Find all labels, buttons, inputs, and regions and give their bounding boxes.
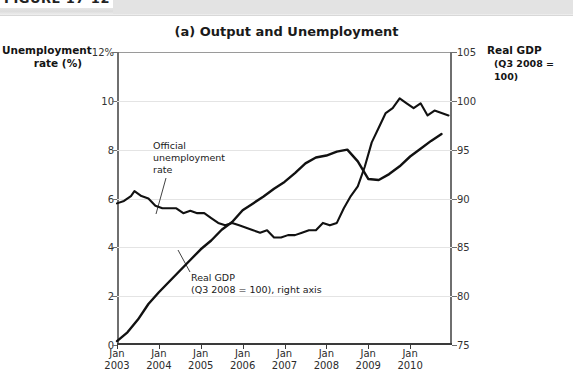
figure-band-fill — [113, 0, 573, 14]
gridline — [117, 296, 452, 297]
x-tick-month: Jan — [319, 348, 334, 359]
left-axis-tick — [112, 247, 117, 248]
chart-title: (a) Output and Unemployment — [0, 24, 573, 39]
right-axis-tick — [452, 345, 457, 346]
left-axis-title-line2: rate (%) — [2, 57, 82, 70]
annotation-unemployment-line1: Official — [153, 140, 225, 152]
x-tick-year: 2008 — [304, 360, 348, 372]
plot-area — [117, 52, 452, 345]
x-axis-tick-label: Jan2009 — [346, 348, 390, 372]
x-tick-month: Jan — [193, 348, 208, 359]
right-axis-tick-label: 105 — [457, 47, 476, 58]
left-axis-tick — [112, 101, 117, 102]
right-axis-tick-label: 90 — [457, 193, 470, 204]
x-axis-tick-label: Jan2010 — [388, 348, 432, 372]
right-axis-tick-label: 75 — [457, 340, 470, 351]
x-tick-month: Jan — [235, 348, 250, 359]
x-tick-month: Jan — [277, 348, 292, 359]
left-axis-tick — [112, 199, 117, 200]
right-axis-tick-label: 80 — [457, 291, 470, 302]
annotation-gdp-line1: Real GDP — [191, 272, 322, 284]
right-axis-tick — [452, 199, 457, 200]
left-axis-title: Unemployment rate (%) — [2, 44, 82, 70]
x-tick-year: 2005 — [179, 360, 223, 372]
annotation-unemployment-line2: unemployment — [153, 152, 225, 164]
right-axis-tick-labels: 7580859095100105 — [457, 52, 487, 345]
right-axis-tick-label: 85 — [457, 242, 470, 253]
x-tick-year: 2003 — [95, 360, 139, 372]
left-axis-tick — [112, 52, 117, 53]
left-axis-tick — [112, 296, 117, 297]
x-tick-year: 2010 — [388, 360, 432, 372]
right-axis-title: Real GDP (Q3 2008 = 100) — [487, 44, 573, 83]
x-axis-tick-label: Jan2007 — [263, 348, 307, 372]
right-axis-tick — [452, 247, 457, 248]
left-axis-title-line1: Unemployment — [2, 44, 82, 57]
x-tick-month: Jan — [109, 348, 124, 359]
annotation-gdp-line2: (Q3 2008 = 100), right axis — [191, 284, 322, 296]
annotation-unemployment-rate: Official unemployment rate — [153, 140, 225, 176]
x-axis-tick-label: Jan2003 — [95, 348, 139, 372]
figure-band-label-area: FIGURE 17-12 — [0, 0, 113, 8]
x-tick-year: 2004 — [137, 360, 181, 372]
right-axis-tick — [452, 296, 457, 297]
x-axis-tick-label: Jan2008 — [304, 348, 348, 372]
x-axis-tick-labels: Jan2003Jan2004Jan2005Jan2006Jan2007Jan20… — [117, 348, 452, 388]
right-axis-title-line2: (Q3 2008 = 100) — [487, 57, 573, 83]
right-axis-tick-label: 100 — [457, 95, 476, 106]
right-axis-tick-label: 95 — [457, 144, 470, 155]
gridline — [117, 101, 452, 102]
plot-top-border — [117, 52, 452, 53]
gridline — [117, 247, 452, 248]
x-tick-month: Jan — [361, 348, 376, 359]
annotation-unemployment-line3: rate — [153, 164, 225, 176]
x-tick-month: Jan — [151, 348, 166, 359]
left-axis-tick-labels: 024681012% — [84, 52, 114, 345]
figure-number-label: FIGURE 17-12 — [4, 0, 110, 6]
x-axis-tick-label: Jan2004 — [137, 348, 181, 372]
x-tick-year: 2006 — [221, 360, 265, 372]
right-axis-tick — [452, 52, 457, 53]
header-divider — [0, 15, 573, 16]
x-tick-year: 2007 — [263, 360, 307, 372]
gridline — [117, 199, 452, 200]
right-axis-title-line1: Real GDP — [487, 44, 573, 57]
figure-header-band: FIGURE 17-12 — [0, 0, 573, 16]
x-tick-month: Jan — [402, 348, 417, 359]
left-axis-tick — [112, 150, 117, 151]
right-axis-tick — [452, 150, 457, 151]
x-axis-tick-label: Jan2005 — [179, 348, 223, 372]
x-tick-year: 2009 — [346, 360, 390, 372]
x-axis-tick-label: Jan2006 — [221, 348, 265, 372]
right-axis-tick — [452, 101, 457, 102]
left-axis-tick-label: 12% — [92, 47, 114, 58]
annotation-real-gdp: Real GDP (Q3 2008 = 100), right axis — [191, 272, 322, 296]
